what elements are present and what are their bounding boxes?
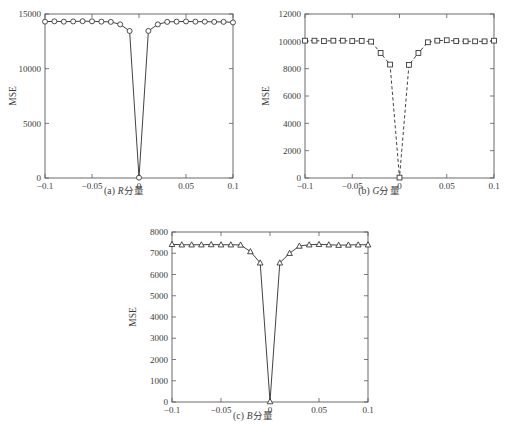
y-tick-label: 5000 [23,119,42,129]
data-point-marker [174,19,179,24]
data-point-marker [397,175,402,180]
data-point-marker [193,19,198,24]
data-point-marker [407,62,412,67]
data-point-marker [359,39,364,44]
y-tick-label: 15000 [19,9,42,19]
chart-svg-b: −0.1−0.0500.050.102000400060008000100001… [252,0,506,196]
caption-a-suffix: 分量 [124,186,144,196]
data-point-marker [169,241,175,246]
data-point-marker [340,38,345,43]
data-point-marker [231,20,236,25]
y-tick-label: 7000 [150,248,169,258]
y-tick-label: 8000 [150,227,169,237]
data-point-marker [369,39,374,44]
y-axis-title: MSE [261,86,271,106]
caption-a-index: (a) [104,186,115,196]
y-tick-label: 10000 [279,37,302,47]
y-tick-label: 10000 [19,64,42,74]
caption-c-suffix: 分量 [253,411,273,421]
data-point-marker [61,19,66,24]
chart-panel-a: −0.1−0.0500.050.1050001000015000MSEβ (a)… [0,0,248,216]
data-point-marker [248,249,254,254]
y-tick-label: 6000 [150,270,169,280]
data-point-marker [388,62,393,67]
y-tick-label: 4000 [150,312,169,322]
chart-svg-c: −0.1−0.0500.050.101000200030004000500060… [122,218,384,420]
y-tick-label: 1000 [150,376,169,386]
y-tick-label: 5000 [150,291,169,301]
data-point-marker [118,22,123,27]
data-point-marker [165,19,170,24]
data-point-marker [463,39,468,44]
data-point-marker [80,19,85,24]
data-point-marker [322,39,327,44]
data-point-marker [473,39,478,44]
data-point-marker [378,51,383,56]
data-point-marker [331,38,336,43]
data-point-marker [444,38,449,43]
y-tick-label: 12000 [279,9,302,19]
data-point-marker [454,39,459,44]
data-point-marker [425,40,430,45]
y-axis-title: MSE [8,86,18,106]
caption-a: (a) R分量 [0,183,248,197]
y-tick-label: 4000 [283,119,302,129]
y-tick-label: 0 [164,397,169,407]
data-point-marker [267,399,273,404]
chart-panel-b: −0.1−0.0500.050.102000400060008000100001… [252,0,506,216]
y-tick-label: 2000 [283,146,302,156]
plot-frame [172,232,368,402]
data-point-marker [155,22,160,27]
data-point-marker [303,38,308,43]
data-point-marker [492,38,497,43]
caption-c-index: (c) [233,411,244,421]
data-point-marker [146,28,151,33]
y-tick-label: 0 [297,173,302,183]
caption-b-index: (b) [358,186,370,196]
series-line [305,40,494,177]
y-tick-label: 0 [37,173,42,183]
y-tick-label: 8000 [283,64,302,74]
data-point-marker [416,51,421,56]
data-point-marker [212,19,217,24]
chart-panel-c: −0.1−0.0500.050.101000200030004000500060… [122,218,384,442]
caption-c: (c) B分量 [122,408,384,422]
data-point-marker [287,250,293,255]
data-point-marker [316,241,322,246]
data-point-marker [482,39,487,44]
figure-container: −0.1−0.0500.050.1050001000015000MSEβ (a)… [0,0,506,442]
data-point-marker [202,19,207,24]
data-point-marker [127,28,132,33]
y-tick-label: 3000 [150,333,169,343]
data-point-marker [108,19,113,24]
data-point-marker [137,175,142,180]
y-axis-title: MSE [128,307,138,327]
data-point-marker [90,19,95,24]
chart-svg-a: −0.1−0.0500.050.1050001000015000MSEβ [0,0,248,196]
series-line [172,244,368,401]
data-point-marker [52,19,57,24]
series-line [45,21,233,177]
caption-b: (b) G分量 [252,183,506,197]
data-point-marker [99,19,104,24]
data-point-marker [350,39,355,44]
data-point-marker [43,19,48,24]
data-point-marker [435,38,440,43]
data-point-marker [184,19,189,24]
y-tick-label: 2000 [150,355,169,365]
data-point-marker [71,19,76,24]
data-point-marker [312,38,317,43]
y-tick-label: 6000 [283,91,302,101]
caption-b-suffix: 分量 [379,186,399,196]
data-point-marker [221,19,226,24]
plot-frame [45,14,233,178]
